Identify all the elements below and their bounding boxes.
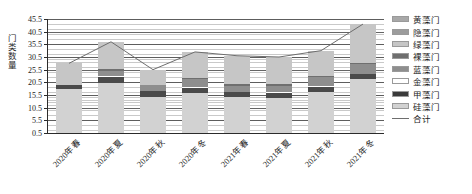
legend-swatch-icon: [392, 66, 409, 72]
legend-swatch-icon: [392, 78, 409, 84]
legend-swatch-icon: [392, 16, 409, 22]
y-tick-label: 20.5: [28, 78, 42, 87]
y-tick-label: 40.5: [28, 27, 42, 36]
legend-label: 黄藻门: [413, 13, 440, 25]
x-tick-label-text: 2021年秋: [301, 136, 334, 169]
y-axis-title: 门类数量: [2, 34, 16, 70]
legend-swatch-icon: [392, 103, 409, 109]
y-tick-label: 5.5: [32, 116, 42, 125]
y-tick-label: 0.5: [32, 129, 42, 138]
y-tick-label: 45.5: [28, 15, 42, 24]
legend-item[interactable]: 黄藻门: [392, 13, 470, 25]
legend-item[interactable]: 蓝藻门: [392, 63, 470, 75]
legend-label: 裸藻门: [413, 50, 440, 62]
legend-label: 合计: [413, 112, 431, 124]
chart-legend: 黄藻门隐藻门绿藻门裸藻门蓝藻门金藻门甲藻门硅藻门合计: [392, 13, 470, 125]
y-tick-mark: [44, 133, 48, 134]
y-tick-label: 35.5: [28, 40, 42, 49]
legend-label: 隐藻门: [413, 26, 440, 38]
y-axis-tick-labels: 0.55.510.515.520.525.530.535.540.545.5: [18, 14, 44, 135]
x-tick-label-text: 2020年冬: [175, 136, 208, 169]
legend-swatch-icon: [392, 41, 409, 47]
legend-item[interactable]: 隐藻门: [392, 25, 470, 37]
total-line: [69, 24, 363, 70]
legend-item[interactable]: 甲藻门: [392, 87, 470, 99]
legend-swatch-icon: [392, 91, 409, 97]
legend-item[interactable]: 绿藻门: [392, 38, 470, 50]
legend-label: 金藻门: [413, 75, 440, 87]
legend-item[interactable]: 金藻门: [392, 75, 470, 87]
legend-swatch-icon: [392, 53, 409, 59]
legend-swatch-icon: [392, 29, 409, 35]
y-tick-label: 30.5: [28, 53, 42, 62]
y-tick-label: 15.5: [28, 91, 42, 100]
x-tick-label-text: 2021年夏: [259, 136, 292, 169]
stacked-bar-chart: 门类数量 0.55.510.515.520.525.530.535.540.54…: [0, 0, 472, 194]
y-tick-label: 10.5: [28, 103, 42, 112]
x-tick-label-text: 2021年冬: [343, 136, 376, 169]
x-tick-label-text: 2020年秋: [133, 136, 166, 169]
legend-line-icon: [392, 118, 409, 119]
legend-label: 甲藻门: [413, 88, 440, 100]
x-tick-label-text: 2021年春: [217, 136, 250, 169]
legend-item[interactable]: 合计: [392, 112, 470, 124]
y-tick-label: 25.5: [28, 65, 42, 74]
legend-label: 蓝藻门: [413, 63, 440, 75]
legend-item[interactable]: 硅藻门: [392, 100, 470, 112]
legend-label: 绿藻门: [413, 38, 440, 50]
x-axis-tick-labels: 2020年春2020年夏2020年秋2020年冬2021年春2021年夏2021…: [47, 136, 383, 192]
x-tick-label-text: 2020年夏: [91, 136, 124, 169]
legend-label: 硅藻门: [413, 100, 440, 112]
x-tick-label-text: 2020年春: [49, 136, 82, 169]
legend-item[interactable]: 裸藻门: [392, 50, 470, 62]
